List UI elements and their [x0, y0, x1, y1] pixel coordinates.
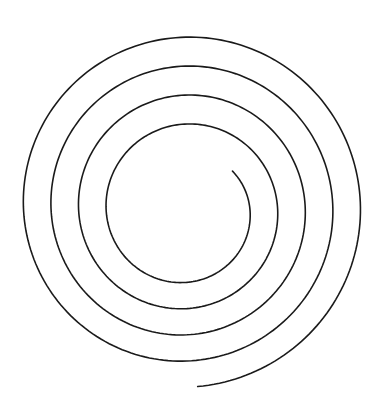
spiral-curve [23, 37, 360, 386]
spiral-figure [0, 0, 373, 396]
